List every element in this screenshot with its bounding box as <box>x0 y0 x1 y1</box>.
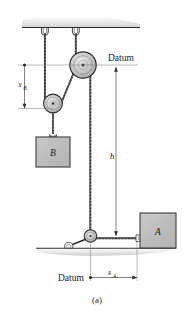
pulley-system-diagram: B s B Datum <box>0 0 194 319</box>
dimension-h: h <box>110 67 118 236</box>
h-label: h <box>110 151 115 161</box>
ceiling-support <box>22 16 140 28</box>
datum-top-label: Datum <box>108 53 134 63</box>
datum-bottom-label: Datum <box>58 273 84 283</box>
s-b-label: s <box>19 80 22 89</box>
figure-container: B s B Datum <box>0 0 194 319</box>
datum-bottom: Datum <box>58 273 84 283</box>
block-a-label: A <box>154 227 161 237</box>
s-a-label: s <box>108 268 111 277</box>
figure-caption: (a) <box>92 295 102 305</box>
block-b-label: B <box>50 148 56 158</box>
block-a: A <box>140 213 176 248</box>
s-a-subscript: A <box>112 273 117 279</box>
ground-support <box>36 248 176 256</box>
bottom-pulley <box>84 230 97 243</box>
s-b-subscript: B <box>23 85 27 91</box>
block-b: B <box>36 137 70 167</box>
movable-pulley <box>44 94 63 113</box>
